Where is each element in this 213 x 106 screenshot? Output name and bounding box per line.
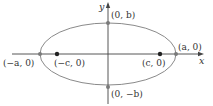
y-axis-arrow-icon xyxy=(106,2,110,8)
right-vertex-point xyxy=(174,52,178,56)
bottom-covertex-point xyxy=(106,85,110,89)
right-focus-point xyxy=(158,52,162,56)
left-vertex-label: (−a, 0) xyxy=(3,58,34,68)
right-focus-label: (c, 0) xyxy=(142,58,166,68)
right-vertex-label: (a, 0) xyxy=(178,42,202,52)
top-covertex-label: (0, b) xyxy=(111,10,135,20)
top-covertex-point xyxy=(106,21,110,25)
ellipse-diagram: x y (−a, 0) (−c, 0) (c, 0) (a, 0) (0, b)… xyxy=(0,0,213,106)
y-axis-label: y xyxy=(98,1,105,12)
bottom-covertex-label: (0, −b) xyxy=(111,89,143,99)
x-axis-label: x xyxy=(199,55,205,66)
left-vertex-point xyxy=(38,52,42,56)
left-focus-point xyxy=(55,52,59,56)
left-focus-label: (−c, 0) xyxy=(54,58,85,68)
